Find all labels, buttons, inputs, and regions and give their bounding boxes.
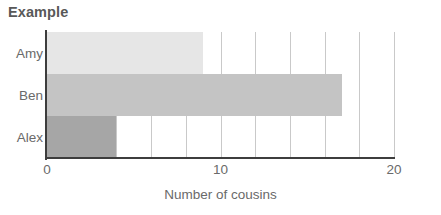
- x-tick-label-10: 10: [213, 162, 228, 177]
- gridline: [359, 32, 360, 158]
- plot-area: [47, 32, 394, 158]
- x-tick-label-20: 20: [386, 162, 401, 177]
- y-tick-label-amy: Amy: [16, 46, 43, 61]
- x-axis-label: Number of cousins: [0, 187, 441, 202]
- bar-alex: [47, 116, 116, 158]
- y-tick-label-ben: Ben: [19, 88, 43, 103]
- gridline: [394, 32, 395, 158]
- bar-ben: [47, 74, 342, 116]
- x-axis-line: [45, 157, 395, 159]
- x-tick-label-0: 0: [43, 162, 51, 177]
- chart-screenshot: Example AmyBenAlex 01020 Number of cousi…: [0, 0, 441, 215]
- y-axis-line: [45, 30, 47, 160]
- y-axis-tick-labels: AmyBenAlex: [0, 32, 43, 158]
- y-tick-label-alex: Alex: [17, 130, 43, 145]
- bar-amy: [47, 32, 203, 74]
- page-title: Example: [8, 4, 68, 20]
